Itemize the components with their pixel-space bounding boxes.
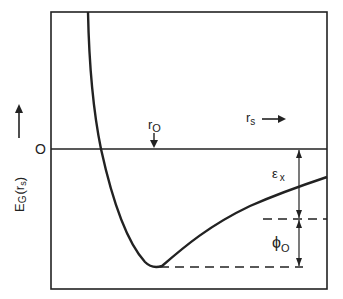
energy-diagram: rO rs O EG(rs) εx ϕO	[0, 0, 343, 299]
x-axis-label: rs	[246, 110, 255, 127]
epsilon-label: εx	[272, 166, 285, 183]
potential-curve	[88, 12, 327, 267]
r0-marker-arrow	[150, 133, 158, 148]
x-axis-arrow-icon	[262, 115, 286, 123]
svg-text:EG(rs): EG(rs)	[12, 177, 28, 212]
y-axis-arrow-icon	[15, 104, 23, 138]
y-axis-label: EG(rs)	[12, 177, 28, 212]
phi-label: ϕO	[272, 234, 290, 254]
phi-dimension-arrow	[296, 220, 302, 266]
epsilon-dimension-arrow	[296, 150, 302, 218]
zero-label: O	[35, 141, 46, 157]
r0-label: rO	[148, 117, 161, 134]
